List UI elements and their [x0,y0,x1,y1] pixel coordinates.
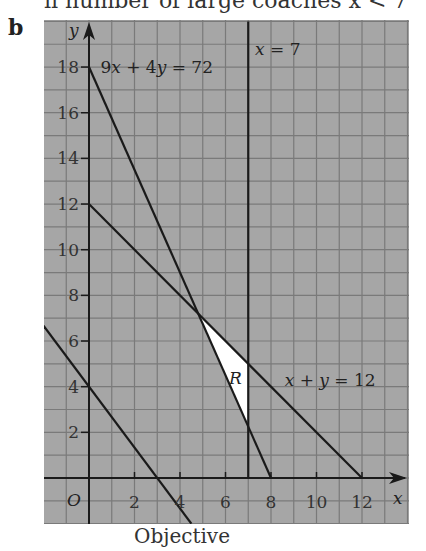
annotation-3: R [228,368,242,388]
y-tick-label: 8 [68,285,79,305]
annotation-0: 9x + 4y = 72 [100,57,213,77]
y-tick-label: 14 [57,148,79,168]
origin-label: O [67,490,81,510]
x-tick-label: 4 [175,492,186,512]
x-tick-label: 8 [266,492,277,512]
x-tick-label: 2 [129,492,140,512]
x-axis-label: x [393,488,403,508]
y-axis-label: y [68,20,79,40]
y-tick-label: 18 [57,57,79,77]
y-tick-label: 4 [68,377,79,397]
x-tick-label: 12 [351,492,373,512]
x-tick-label: 6 [220,492,231,512]
annotation-2: x + y = 12 [285,370,376,390]
caption: Objective [134,524,230,548]
y-tick-label: 2 [68,422,79,442]
x-tick-label: 10 [306,492,328,512]
y-tick-label: 10 [57,240,79,260]
y-tick-label: 12 [57,194,79,214]
y-tick-label: 6 [68,331,79,351]
chart: 2468101224681012141618yxO9x + 4y = 72x =… [0,0,426,551]
y-tick-label: 16 [57,103,79,123]
annotation-1: x = 7 [255,39,300,59]
